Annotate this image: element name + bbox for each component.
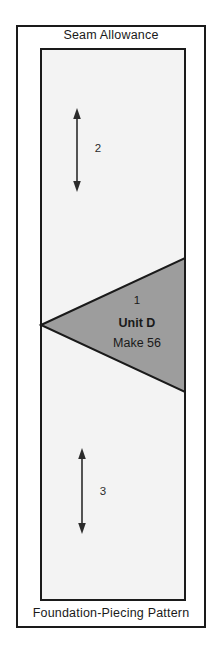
pattern-title-label: Foundation-Piecing Pattern <box>18 606 204 620</box>
section-3-label: 3 <box>93 485 113 497</box>
foundation-piecing-pattern-diagram: Seam Allowance 2 1 Unit D Make 56 3 Foun… <box>0 0 222 654</box>
unit-number-label: 1 <box>88 294 186 306</box>
unit-name-label: Unit D <box>88 316 186 330</box>
seam-allowance-label: Seam Allowance <box>18 28 204 42</box>
unit-make-label: Make 56 <box>88 336 186 350</box>
section-2-label: 2 <box>88 142 108 154</box>
